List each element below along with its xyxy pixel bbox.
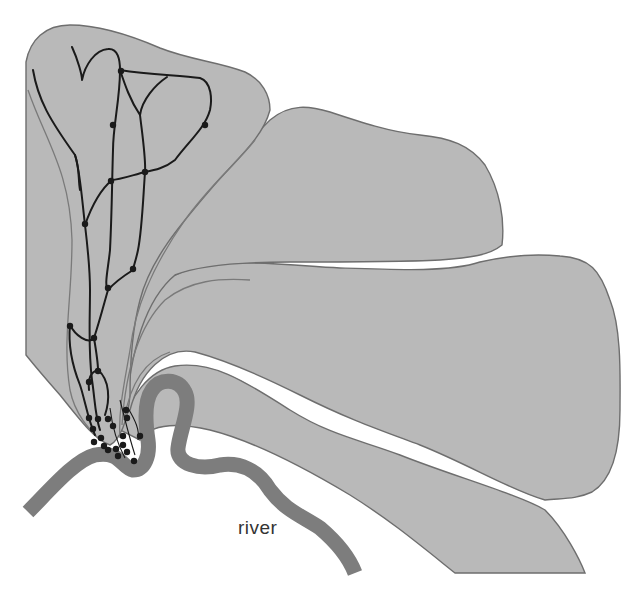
river-label: river: [238, 517, 277, 539]
delta-fan-diagram: [0, 0, 642, 594]
